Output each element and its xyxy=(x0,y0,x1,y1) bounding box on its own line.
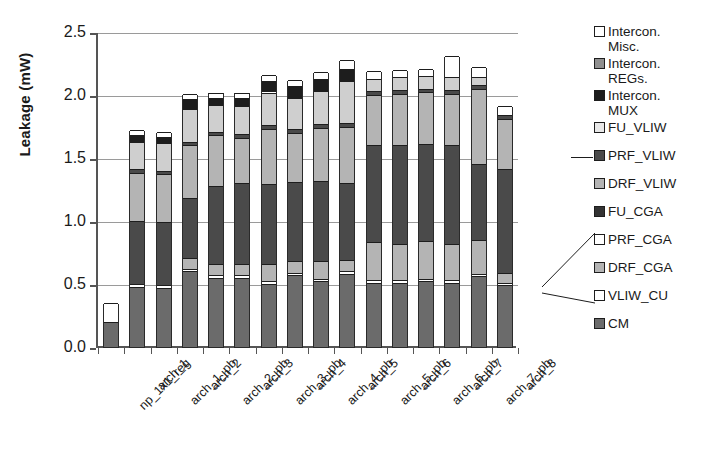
bar-segment xyxy=(288,80,302,86)
legend-label: DRF_CGA xyxy=(608,260,673,275)
y-tick-mark xyxy=(90,348,96,350)
bar-segment xyxy=(235,264,249,275)
bar-column[interactable] xyxy=(261,76,277,348)
legend-item[interactable]: FU_VLIW xyxy=(594,120,705,135)
bar-segment xyxy=(209,105,223,131)
bar-segment xyxy=(130,135,144,141)
bar-segment xyxy=(340,260,354,271)
bar-segment xyxy=(419,92,433,144)
bar-segment xyxy=(288,129,302,133)
bar-segment xyxy=(419,241,433,279)
bar-segment xyxy=(130,142,144,170)
x-tick-mark xyxy=(466,348,467,354)
bar-column[interactable] xyxy=(182,95,198,348)
bar-column[interactable] xyxy=(234,93,250,348)
bar-segment xyxy=(235,98,249,107)
legend-item[interactable]: DRF_VLIW xyxy=(594,176,705,191)
legend-item[interactable]: Intercon.Misc. xyxy=(594,24,705,54)
legend-item[interactable]: Intercon.MUX xyxy=(594,88,705,118)
bar-segment xyxy=(262,184,276,263)
x-tick-mark xyxy=(203,348,204,354)
legend-label: VLIW_CU xyxy=(608,288,668,303)
bar-segment xyxy=(498,106,512,115)
legend-item[interactable]: VLIW_CU xyxy=(594,288,705,303)
bar-segment xyxy=(340,123,354,127)
bar-segment xyxy=(209,264,223,275)
y-tick-label: 2.5 xyxy=(40,23,86,41)
bar-column[interactable] xyxy=(392,71,408,348)
bar-segment xyxy=(130,287,144,347)
x-tick-mark xyxy=(229,348,230,354)
bar-segment xyxy=(209,186,223,264)
bar-segment xyxy=(314,181,328,262)
x-tick-mark xyxy=(518,348,519,354)
bar-segment xyxy=(340,81,354,123)
x-tick-mark xyxy=(282,348,283,354)
y-tick-mark xyxy=(90,285,96,287)
bar-segment xyxy=(445,280,459,283)
legend-label: Intercon. xyxy=(608,56,661,71)
bar-segment xyxy=(183,198,197,257)
bar-segment xyxy=(157,285,171,288)
bar-segment xyxy=(445,283,459,347)
bar-segment xyxy=(183,258,197,269)
bar-segment xyxy=(235,134,249,138)
legend-item[interactable]: PRF_CGA xyxy=(594,232,705,247)
bar-column[interactable] xyxy=(418,70,434,348)
bar-column[interactable] xyxy=(313,73,329,348)
plot-area xyxy=(96,33,516,348)
bar-segment xyxy=(445,244,459,281)
legend-item[interactable]: DRF_CGA xyxy=(594,260,705,275)
bar-segment xyxy=(445,94,459,146)
legend-item[interactable]: FU_CGA xyxy=(594,204,705,219)
bar-segment xyxy=(288,182,302,261)
bar-column[interactable] xyxy=(156,133,172,348)
legend-swatch xyxy=(594,206,605,217)
bar-segment xyxy=(130,173,144,221)
bar-segment xyxy=(314,79,328,92)
bar-column[interactable] xyxy=(497,107,513,348)
bar-column[interactable] xyxy=(129,131,145,348)
bar-segment xyxy=(288,98,302,130)
bar-column[interactable] xyxy=(339,61,355,348)
y-tick-label: 0.5 xyxy=(40,275,86,293)
bar-column[interactable] xyxy=(287,81,303,348)
bar-segment xyxy=(235,183,249,264)
bar-segment xyxy=(498,115,512,119)
leakage-stacked-bar-chart: Leakage (mW) 0.00.51.01.52.02.5 np_1x1_r… xyxy=(0,0,705,458)
bar-column[interactable] xyxy=(471,68,487,348)
legend-item[interactable]: Intercon.REGs. xyxy=(594,56,705,86)
bar-column[interactable] xyxy=(103,304,119,348)
bar-segment xyxy=(288,86,302,97)
legend-item[interactable]: PRF_VLIW xyxy=(594,148,705,163)
legend-swatch xyxy=(594,90,605,101)
y-tick-label: 1.5 xyxy=(40,149,86,167)
leader-line-group-cga xyxy=(520,225,598,315)
bar-column[interactable] xyxy=(444,57,460,348)
bar-segment xyxy=(314,128,328,181)
bar-segment xyxy=(157,174,171,222)
bar-segment xyxy=(235,138,249,183)
legend-item[interactable]: CM xyxy=(594,316,705,331)
bar-column[interactable] xyxy=(366,72,382,348)
bar-segment xyxy=(367,71,381,79)
y-tick-mark xyxy=(90,222,96,224)
legend-swatch xyxy=(594,178,605,189)
bar-segment xyxy=(472,164,486,240)
bar-segment xyxy=(209,132,223,136)
leader-line-prf-vliw xyxy=(571,157,593,158)
y-tick-label: 2.0 xyxy=(40,86,86,104)
bar-column[interactable] xyxy=(208,93,224,348)
legend-swatch xyxy=(594,150,605,161)
bar-segment xyxy=(314,72,328,78)
bar-segment xyxy=(183,94,197,99)
bar-segment xyxy=(340,69,354,82)
bar-segment xyxy=(445,77,459,90)
bar-segment xyxy=(340,183,354,260)
bar-segment xyxy=(104,303,118,322)
bar-segment xyxy=(262,75,276,81)
x-tick-mark xyxy=(413,348,414,354)
bar-segment xyxy=(393,283,407,347)
y-tick-mark xyxy=(90,159,96,161)
x-tick-mark xyxy=(361,348,362,354)
